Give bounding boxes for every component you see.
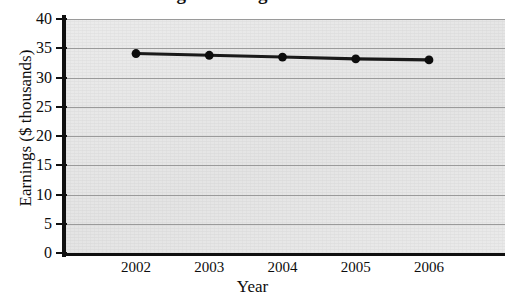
- y-axis-tick-label: 0: [24, 245, 52, 261]
- y-axis-tick-label: 40: [24, 11, 52, 27]
- y-axis-tick: [56, 135, 67, 137]
- y-axis-tick: [56, 47, 67, 49]
- y-tick-group: 0510152025303540: [0, 0, 505, 296]
- x-axis-tick-label: 2002: [106, 259, 166, 276]
- x-axis-tick-label: 2003: [179, 259, 239, 276]
- y-axis-tick-label: 10: [24, 187, 52, 203]
- y-axis-tick: [56, 223, 67, 225]
- x-axis-tick-label: 2006: [399, 259, 459, 276]
- y-axis-tick-label: 25: [24, 99, 52, 115]
- x-axis-tick-label: 2005: [326, 259, 386, 276]
- y-axis-tick: [56, 164, 67, 166]
- x-axis-tick-label: 2004: [253, 259, 313, 276]
- y-axis-tick-label: 30: [24, 70, 52, 86]
- y-axis-tick: [56, 194, 67, 196]
- y-axis-tick: [56, 77, 67, 79]
- y-axis-tick: [56, 18, 67, 20]
- y-axis-tick-label: 20: [24, 128, 52, 144]
- y-axis-tick-label: 5: [24, 216, 52, 232]
- line-chart: Average Earnings for Females Earnings ($…: [0, 0, 505, 296]
- y-axis-tick-label: 35: [24, 40, 52, 56]
- y-axis-tick: [56, 106, 67, 108]
- y-axis-tick-label: 15: [24, 157, 52, 173]
- y-axis-tick: [56, 252, 67, 254]
- x-axis-title: Year: [0, 277, 505, 296]
